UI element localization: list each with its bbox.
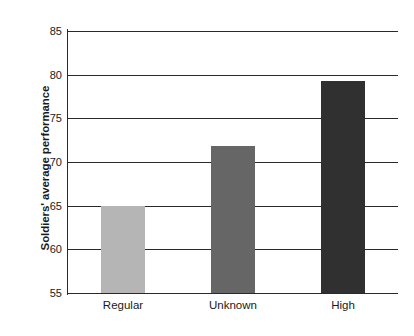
bar-high xyxy=(321,81,365,293)
y-axis-tick-labels: 85 80 75 70 65 60 55 xyxy=(30,31,62,293)
y-tick-label-80: 80 xyxy=(36,69,62,81)
y-tick-label-65: 65 xyxy=(36,200,62,212)
bar-chart-figure: Soldiers' average performance 85 80 75 7… xyxy=(0,0,414,336)
x-tick-label-unknown: Unknown xyxy=(209,299,257,311)
y-tick-label-75: 75 xyxy=(36,112,62,124)
bar-regular xyxy=(101,206,145,293)
plot-area xyxy=(68,31,398,293)
y-tick-label-60: 60 xyxy=(36,243,62,255)
x-axis-tick-labels: Regular Unknown High xyxy=(68,299,398,319)
gridline-80 xyxy=(68,75,398,76)
gridline-85 xyxy=(68,31,398,32)
gridline-55-axis xyxy=(68,293,398,294)
y-tick-label-85: 85 xyxy=(36,25,62,37)
bar-unknown xyxy=(211,146,255,293)
x-tick-label-regular: Regular xyxy=(103,299,143,311)
y-tick-label-70: 70 xyxy=(36,156,62,168)
y-tick-label-55: 55 xyxy=(36,287,62,299)
x-tick-label-high: High xyxy=(331,299,355,311)
